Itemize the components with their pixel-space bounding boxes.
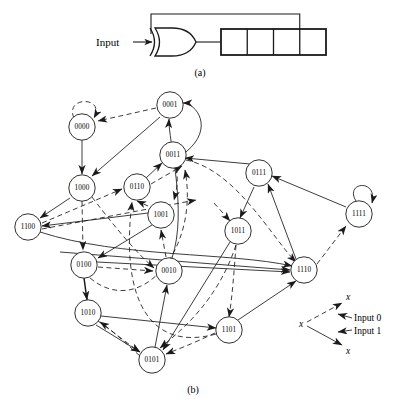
state-node-1111[interactable]: 1111 — [346, 201, 372, 227]
legend-tip-var-bottom: x — [345, 346, 351, 356]
state-node-0110[interactable]: 0110 — [124, 174, 150, 200]
state-label: 1101 — [222, 326, 237, 334]
state-label: 1011 — [231, 227, 246, 235]
edge-0111-0011 — [185, 158, 250, 164]
edge-1111-0111 — [272, 176, 346, 207]
state-node-1100[interactable]: 1100 — [15, 214, 41, 240]
edge-1001-0100 — [98, 225, 152, 258]
edge-0100-1110-aux — [97, 262, 290, 272]
edge-1101-1110 — [238, 281, 296, 320]
edge-1111-self — [353, 185, 372, 203]
shift-register — [221, 29, 326, 55]
edge-1001-1100 — [42, 213, 148, 226]
edge-0111-1011-d — [214, 203, 230, 221]
state-node-0001[interactable]: 0001 — [157, 92, 183, 118]
edge-0100-0010 — [98, 267, 153, 271]
input-label: Input — [96, 36, 119, 48]
state-label: 0101 — [145, 356, 160, 364]
state-node-1000[interactable]: 1000 — [69, 175, 95, 201]
edge-0111-1011 — [240, 187, 254, 218]
edge-0001-1000 — [92, 117, 160, 176]
state-node-0011[interactable]: 0011 — [160, 142, 186, 168]
state-label: 1010 — [81, 309, 96, 317]
state-label: 0100 — [77, 261, 92, 269]
edge-1110-1111 — [317, 226, 346, 264]
legend-input1-label: Input 1 — [354, 326, 381, 336]
legend-input0-arrow — [307, 303, 342, 322]
state-node-0111[interactable]: 0111 — [246, 160, 272, 186]
panel-b-state-diagram: 0000 0001 0011 0111 1000 0110 — [0, 86, 401, 404]
state-label: 1111 — [352, 210, 366, 218]
edge-1001-0110 — [137, 201, 148, 206]
edge-0011-1110 — [186, 160, 296, 262]
edge-1010-1101 — [101, 316, 216, 328]
state-node-1101[interactable]: 1101 — [216, 317, 242, 343]
edge-1110-0111 — [268, 184, 296, 259]
legend-input0-pointer — [338, 314, 352, 318]
edge-0110-0011 — [146, 163, 162, 178]
state-label: 0111 — [252, 169, 267, 177]
legend-input0-label: Input 0 — [354, 313, 381, 323]
state-node-1010[interactable]: 1010 — [75, 300, 101, 326]
state-label: 0000 — [75, 123, 90, 131]
state-node-1001[interactable]: 1001 — [148, 202, 174, 228]
state-label: 0011 — [166, 151, 181, 159]
panel-b-caption: (b) — [187, 384, 199, 396]
state-label: 1000 — [75, 184, 90, 192]
edge-0101-0010 — [155, 285, 167, 347]
state-label: 0110 — [130, 183, 145, 191]
state-label: 1001 — [154, 211, 169, 219]
edge-0001-0000 — [98, 108, 156, 121]
state-node-0010[interactable]: 0010 — [156, 258, 182, 284]
state-nodes: 0000 0001 0011 0111 1000 0110 — [15, 92, 372, 373]
edge-1010-0101-d — [98, 321, 140, 352]
edge-1010-0101 — [96, 325, 140, 352]
xor-gate — [150, 28, 196, 56]
state-label: 1100 — [21, 223, 36, 231]
state-node-0101[interactable]: 0101 — [139, 347, 165, 373]
edge-1000-1100 — [40, 198, 70, 218]
state-node-0100[interactable]: 0100 — [71, 252, 97, 278]
edge-0100-1010 — [84, 278, 87, 300]
state-label: 0001 — [163, 101, 178, 109]
figure-container: Input (a) — [0, 0, 401, 404]
state-node-0000[interactable]: 0000 — [69, 114, 95, 140]
legend-input1-arrow — [307, 326, 342, 345]
legend-input1-pointer — [338, 330, 352, 332]
state-node-1011[interactable]: 1011 — [225, 218, 251, 244]
panel-a-caption: (a) — [194, 67, 205, 79]
panel-a-lfsr-schematic: Input (a) — [0, 0, 401, 86]
legend: x x x Input 0 Input 1 — [298, 292, 381, 356]
edge-0011-0001 — [183, 103, 201, 152]
legend-origin-var: x — [298, 319, 304, 329]
legend-tip-var-top: x — [345, 292, 351, 302]
state-node-1110[interactable]: 1110 — [291, 257, 317, 283]
state-label: 0010 — [162, 267, 177, 275]
state-label: 1110 — [297, 266, 312, 274]
